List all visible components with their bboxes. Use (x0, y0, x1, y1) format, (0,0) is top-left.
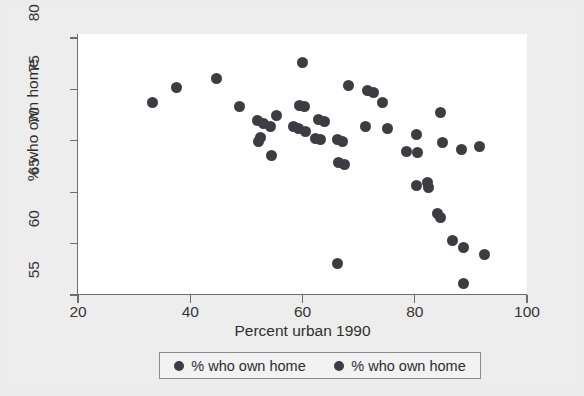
scatter-point (339, 159, 350, 170)
y-axis-tick (70, 37, 78, 38)
scatter-point (147, 97, 158, 108)
scatter-point (271, 110, 282, 121)
scatter-point (423, 182, 434, 193)
x-axis-tick-label: 100 (503, 303, 551, 321)
legend-item[interactable]: % who own home (334, 358, 465, 374)
scatter-point (343, 80, 354, 91)
y-axis-title: % who own home (24, 30, 44, 210)
legend-item-label: % who own home (351, 358, 465, 374)
y-axis-tick (70, 140, 78, 141)
x-axis-tick (526, 295, 527, 303)
scatter-point (171, 82, 182, 93)
x-axis-tick-label: 40 (166, 303, 214, 321)
x-axis-tick (190, 295, 191, 303)
y-axis-tick (70, 243, 78, 244)
y-axis-tick (70, 192, 78, 193)
x-axis-tick (302, 295, 303, 303)
scatter-point (377, 97, 388, 108)
scatter-point (435, 212, 446, 223)
scatter-point (258, 118, 269, 129)
scatter-point (319, 116, 330, 127)
figure-canvas: 556065707580 20406080100 % who own home … (0, 0, 584, 396)
legend-item[interactable]: % who own home (174, 358, 305, 374)
scatter-point (412, 147, 423, 158)
y-axis-tick-label: 55 (0, 286, 68, 304)
x-axis-tick-label: 20 (54, 303, 102, 321)
plot-area (78, 34, 527, 295)
legend-marker-circle-icon (174, 361, 184, 371)
scatter-point (411, 129, 422, 140)
y-axis-tick-label: 60 (0, 235, 68, 253)
scatter-point (435, 107, 446, 118)
scatter-point (293, 123, 304, 134)
legend-box[interactable]: % who own home % who own home (159, 352, 481, 379)
scatter-point (211, 73, 222, 84)
x-axis-tick (77, 295, 78, 303)
scatter-point (456, 144, 467, 155)
x-axis-tick-label: 80 (391, 303, 439, 321)
scatter-point (401, 146, 412, 157)
x-axis-tick-label: 60 (279, 303, 327, 321)
y-axis-line (77, 34, 78, 296)
y-axis-tick (70, 89, 78, 90)
x-axis-title: Percent urban 1990 (78, 322, 527, 340)
legend-marker-circle-icon (334, 361, 344, 371)
legend-item-label: % who own home (191, 358, 305, 374)
scatter-point (411, 180, 422, 191)
scatter-point (332, 258, 343, 269)
scatter-point (458, 278, 469, 289)
scatter-point (360, 121, 371, 132)
x-axis-tick (414, 295, 415, 303)
scatter-point (266, 150, 277, 161)
